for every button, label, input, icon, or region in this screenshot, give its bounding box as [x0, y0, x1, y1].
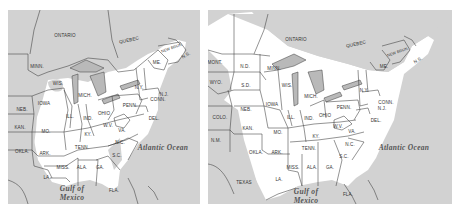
label-nd: N.D.: [240, 64, 250, 69]
label-miss: MISS.: [56, 165, 69, 170]
label-conn: CONN.: [150, 97, 165, 102]
label-wv: W.V.: [103, 123, 113, 128]
label-neb: NEB.: [240, 107, 251, 112]
gulf-line-1: Gulf of: [60, 184, 85, 193]
label-atlantic-ocean: Atlantic Ocean: [138, 143, 189, 152]
label-ky: KY.: [312, 134, 319, 139]
map-right-panel: ONTARIO QUEBEC NEW BRUN. N.S. MONT. WYO.…: [208, 10, 452, 204]
label-la: LA.: [43, 175, 50, 180]
gulf-line-1: Gulf of: [294, 187, 319, 196]
label-del: DEL.: [371, 118, 382, 123]
label-la: LA.: [275, 177, 282, 182]
label-tenn: TENN.: [302, 146, 316, 151]
label-mont: MONT.: [208, 60, 222, 65]
gulf-line-2: Mexico: [60, 193, 85, 202]
label-fla: FLA.: [109, 188, 119, 193]
label-wis: WIS.: [282, 83, 292, 88]
label-atlantic-ocean: Atlantic Ocean: [379, 143, 430, 152]
label-nc: N.C.: [115, 140, 125, 145]
label-ill: ILL.: [287, 115, 295, 120]
label-ga: GA.: [326, 165, 334, 170]
label-nj: N.J.: [378, 106, 387, 111]
label-ontario: ONTARIO: [54, 33, 75, 38]
label-ala: ALA.: [307, 165, 317, 170]
label-wis: WIS.: [53, 81, 63, 86]
label-texas: TEXAS: [236, 180, 252, 185]
label-iowa: IOWA: [38, 101, 50, 106]
label-tenn: TENN.: [75, 145, 89, 150]
label-conn: CONN.: [378, 100, 393, 105]
label-kan: KAN.: [14, 125, 25, 130]
label-ark: ARK.: [39, 151, 50, 156]
label-gulf-of-mexico: Gulf of Mexico: [60, 184, 85, 202]
label-sc: S.C.: [339, 154, 348, 159]
label-va: VA.: [118, 128, 125, 133]
label-iowa: IOWA: [266, 102, 278, 107]
label-ontario: ONTARIO: [285, 37, 306, 42]
label-sd: S.D.: [241, 83, 250, 88]
label-ill: ILL.: [66, 114, 74, 119]
label-nm: N.M.: [211, 138, 221, 143]
label-kan: KAN.: [242, 126, 253, 131]
label-ga: GA.: [96, 165, 104, 170]
map-left-panel: ONTARIO QUEBEC NEW BRUN. N.S. MINN. WIS.…: [8, 10, 200, 204]
label-neb: NEB.: [16, 107, 27, 112]
label-ohio: OHIO: [319, 113, 331, 118]
label-ind: IND.: [304, 116, 314, 121]
label-penn: PENN.: [123, 103, 138, 108]
label-ohio: OHIO: [98, 111, 110, 116]
label-wyo: WYO.: [210, 80, 223, 85]
gulf-line-2: Mexico: [294, 196, 319, 204]
label-ark: ARK.: [271, 150, 282, 155]
label-ala: ALA.: [77, 165, 87, 170]
label-okla: OKLA.: [15, 149, 29, 154]
label-mich: MICH.: [304, 94, 318, 99]
label-nc: N.C.: [345, 142, 355, 147]
label-wv: W.V.: [333, 124, 343, 129]
label-ny: N.Y.: [135, 85, 144, 90]
label-mich: MICH.: [78, 93, 92, 98]
map-left-graphic: [8, 10, 200, 204]
label-fla: FLA.: [343, 192, 353, 197]
label-miss: MISS.: [286, 165, 299, 170]
label-gulf-of-mexico: Gulf of Mexico: [294, 187, 319, 204]
label-mo: MO.: [274, 130, 283, 135]
label-mo: MO.: [42, 129, 51, 134]
label-del: DEL.: [149, 116, 160, 121]
label-va: VA.: [348, 129, 355, 134]
label-ny: N.Y.: [360, 88, 369, 93]
label-ind: IND.: [83, 116, 93, 121]
label-sc: S.C.: [112, 153, 121, 158]
label-me: ME.: [380, 64, 388, 69]
label-minn: MINN.: [267, 66, 281, 71]
label-penn: PENN.: [337, 105, 352, 110]
label-ky: KY.: [84, 132, 91, 137]
label-okla: OKLA.: [249, 150, 263, 155]
label-colo: COLO.: [213, 115, 228, 120]
label-minn: MINN.: [30, 64, 44, 69]
label-me: ME.: [153, 60, 161, 65]
